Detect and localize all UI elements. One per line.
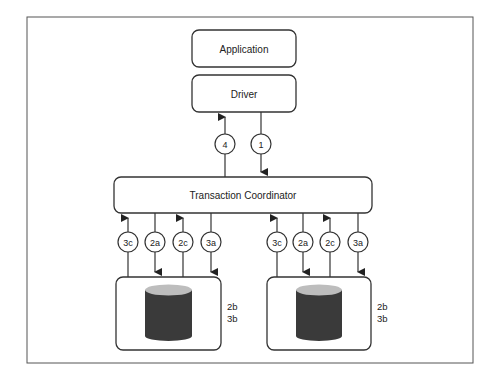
application-box: Application	[192, 30, 296, 67]
step-label: 2a	[298, 238, 308, 248]
step-label-2b: 2b	[227, 301, 238, 312]
left-database-box: 2b 3b	[116, 277, 238, 350]
step-label: 2a	[150, 238, 160, 248]
step-label-2b: 2b	[377, 301, 388, 312]
application-label: Application	[220, 44, 269, 55]
step-label-3b: 3b	[377, 313, 388, 324]
step-label: 4	[222, 140, 227, 150]
transaction-diagram: Application Driver 4 1 Transaction Coord…	[0, 0, 494, 376]
step-label: 2c	[325, 238, 335, 248]
step-label: 2c	[178, 238, 188, 248]
right-database-box: 2b 3b	[267, 277, 388, 350]
step-label: 3a	[353, 238, 363, 248]
step-label: 3a	[206, 238, 216, 248]
transaction-coordinator-box: Transaction Coordinator	[114, 177, 372, 213]
database-cylinder-icon	[296, 285, 342, 342]
database-cylinder-icon	[145, 285, 192, 342]
step-label-3b: 3b	[227, 313, 238, 324]
step-label: 1	[258, 140, 263, 150]
coordinator-label: Transaction Coordinator	[190, 190, 298, 201]
step-label: 3c	[123, 238, 133, 248]
step-label: 3c	[272, 238, 282, 248]
driver-label: Driver	[231, 89, 258, 100]
driver-box: Driver	[192, 75, 296, 112]
